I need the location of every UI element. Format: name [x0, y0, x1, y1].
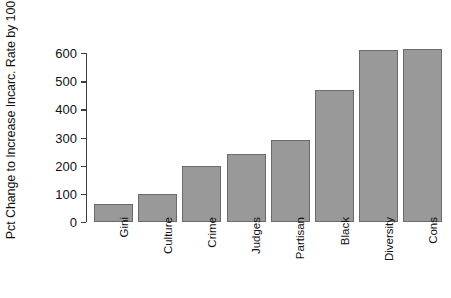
y-axis-title: Pct Change to Increase Incarc. Rate by 1… [0, 0, 22, 240]
y-tick-label: 400 [55, 102, 77, 117]
y-tick-mark [81, 166, 86, 167]
y-tick-label: 100 [55, 186, 77, 201]
y-tick-label: 0 [70, 215, 77, 230]
y-tick-mark [81, 53, 86, 54]
y-tick-label: 200 [55, 158, 77, 173]
x-label-partisan: Partisan [293, 217, 307, 287]
bar-series [90, 50, 444, 225]
plot-area: 0100200300400500600 [86, 50, 444, 225]
bar-chart-figure: Pct Change to Increase Incarc. Rate by 1… [0, 0, 451, 298]
y-tick-mark [81, 222, 86, 223]
y-tick-mark [81, 194, 86, 195]
x-label-diversity: Diversity [382, 217, 396, 287]
y-tick-label: 300 [55, 130, 77, 145]
bar-diversity [359, 50, 398, 222]
bar-partisan [271, 140, 310, 222]
y-tick-mark [81, 81, 86, 82]
caption-fragment [18, 288, 318, 293]
x-label-judges: Judges [249, 217, 263, 287]
y-axis-spine [86, 53, 87, 222]
bar-cons [403, 49, 442, 222]
bar-black [315, 90, 354, 222]
bar-judges [227, 154, 266, 222]
x-label-black: Black [338, 217, 352, 287]
y-tick-mark [81, 138, 86, 139]
y-tick-mark [81, 109, 86, 110]
y-tick-label: 500 [55, 74, 77, 89]
x-label-gini: Gini [117, 217, 131, 287]
x-label-crime: Crime [205, 217, 219, 287]
x-label-cons: Cons [426, 217, 440, 287]
bar-crime [182, 166, 221, 222]
y-tick-label: 600 [55, 46, 77, 61]
x-label-culture: Culture [161, 217, 175, 287]
